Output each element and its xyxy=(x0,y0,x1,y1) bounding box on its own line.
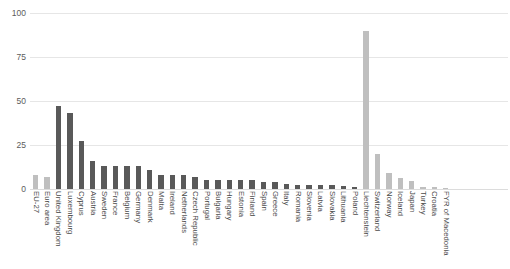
x-label-slot: France xyxy=(110,191,121,269)
bar-germany[interactable] xyxy=(136,166,141,189)
x-label-slot: Japan xyxy=(406,191,417,269)
bar-austria[interactable] xyxy=(90,161,95,189)
plot-area xyxy=(30,13,508,189)
x-label-slot: Netherlands xyxy=(178,191,189,269)
bar-euro-area[interactable] xyxy=(44,177,49,189)
bar-slot xyxy=(53,13,64,189)
bar-greece[interactable] xyxy=(272,182,277,189)
bar-finland[interactable] xyxy=(249,180,254,189)
bar-slovakia[interactable] xyxy=(329,185,334,189)
x-tick-label-belgium: Belgium xyxy=(123,191,131,219)
bar-denmark[interactable] xyxy=(147,170,152,189)
bar-poland[interactable] xyxy=(352,187,357,189)
bar-czech-republic[interactable] xyxy=(192,177,197,189)
x-tick-label-norway: Norway xyxy=(385,191,393,217)
bar-iceland[interactable] xyxy=(398,178,403,189)
x-label-slot: Lithuania xyxy=(338,191,349,269)
bar-spain[interactable] xyxy=(261,182,266,189)
bar-slot xyxy=(155,13,166,189)
y-tick-label-75: 75 xyxy=(0,53,26,62)
bar-slot xyxy=(303,13,314,189)
bar-luxembourg[interactable] xyxy=(67,113,72,189)
x-label-slot: Latvia xyxy=(315,191,326,269)
bar-norway[interactable] xyxy=(386,173,391,189)
x-label-slot: Ireland xyxy=(167,191,178,269)
bar-croatia[interactable] xyxy=(432,187,437,189)
x-label-slot: Czech Republic xyxy=(189,191,200,269)
bar-hungary[interactable] xyxy=(227,180,232,189)
bar-chart: 0255075100 EU-27Euro areaUnited KingdomL… xyxy=(0,0,510,269)
bar-netherlands[interactable] xyxy=(181,175,186,189)
bar-fyr-of-macedonia[interactable] xyxy=(443,188,448,189)
bar-france[interactable] xyxy=(113,166,118,189)
bar-slot xyxy=(440,13,451,189)
x-tick-label-czech-republic: Czech Republic xyxy=(191,191,199,246)
bar-united-kingdom[interactable] xyxy=(56,106,61,189)
x-label-slot: Finland xyxy=(246,191,257,269)
bar-latvia[interactable] xyxy=(318,185,323,189)
bar-malta[interactable] xyxy=(158,175,163,189)
x-label-slot: Hungary xyxy=(224,191,235,269)
bar-bulgaria[interactable] xyxy=(215,180,220,189)
bar-switzerland[interactable] xyxy=(375,154,380,189)
bar-slot xyxy=(360,13,371,189)
bar-liechtenstein[interactable] xyxy=(363,31,368,189)
bar-slot xyxy=(338,13,349,189)
bar-slot xyxy=(224,13,235,189)
x-tick-label-liechtenstein: Liechtenstein xyxy=(362,191,370,237)
x-label-slot: Belgium xyxy=(121,191,132,269)
x-label-slot: Romania xyxy=(292,191,303,269)
bar-slot xyxy=(144,13,155,189)
x-label-slot: Norway xyxy=(383,191,394,269)
x-label-slot: Malta xyxy=(155,191,166,269)
bar-slot xyxy=(178,13,189,189)
x-label-slot: Iceland xyxy=(395,191,406,269)
x-tick-label-cyprus: Cyprus xyxy=(77,191,85,216)
bar-estonia[interactable] xyxy=(238,180,243,189)
x-label-slot: Croatia xyxy=(429,191,440,269)
bar-portugal[interactable] xyxy=(204,180,209,189)
bar-romania[interactable] xyxy=(295,185,300,189)
bar-japan[interactable] xyxy=(409,181,414,189)
x-label-slot: EU-27 xyxy=(30,191,41,269)
bar-slot xyxy=(349,13,360,189)
bar-ireland[interactable] xyxy=(170,175,175,189)
bar-slot xyxy=(326,13,337,189)
bar-slot xyxy=(246,13,257,189)
bar-lithuania[interactable] xyxy=(341,186,346,189)
x-label-slot: Italy xyxy=(281,191,292,269)
x-tick-label-romania: Romania xyxy=(294,191,302,222)
x-tick-label-united-kingdom: United Kingdom xyxy=(54,191,62,246)
x-tick-label-italy: Italy xyxy=(282,191,290,205)
x-tick-label-croatia: Croatia xyxy=(430,191,438,216)
bar-italy[interactable] xyxy=(284,184,289,189)
bar-slot xyxy=(64,13,75,189)
bar-slot xyxy=(406,13,417,189)
x-label-slot: Estonia xyxy=(235,191,246,269)
x-tick-label-lithuania: Lithuania xyxy=(339,191,347,223)
x-label-slot: Sweden xyxy=(98,191,109,269)
x-tick-label-fyr-of-macedonia: FYR of Macedonia xyxy=(442,191,450,256)
bar-slot xyxy=(315,13,326,189)
bar-slovenia[interactable] xyxy=(306,185,311,189)
bar-belgium[interactable] xyxy=(124,166,129,189)
clipped-title xyxy=(0,0,510,7)
x-tick-label-luxembourg: Luxembourg xyxy=(66,191,74,234)
x-tick-label-switzerland: Switzerland xyxy=(373,191,381,231)
x-label-slot: Euro area xyxy=(41,191,52,269)
bar-slot xyxy=(372,13,383,189)
x-tick-label-slovakia: Slovakia xyxy=(328,191,336,220)
x-tick-label-latvia: Latvia xyxy=(316,191,324,212)
bar-slot xyxy=(429,13,440,189)
gridline-0 xyxy=(30,189,508,190)
bar-eu-27[interactable] xyxy=(33,175,38,189)
x-tick-label-portugal: Portugal xyxy=(203,191,211,220)
bar-sweden[interactable] xyxy=(101,166,106,189)
x-label-slot: Turkey xyxy=(417,191,428,269)
bar-turkey[interactable] xyxy=(420,187,425,189)
bar-cyprus[interactable] xyxy=(79,141,84,189)
bar-slot xyxy=(201,13,212,189)
x-label-slot: Cyprus xyxy=(76,191,87,269)
y-tick-label-50: 50 xyxy=(0,97,26,106)
bar-slot xyxy=(383,13,394,189)
